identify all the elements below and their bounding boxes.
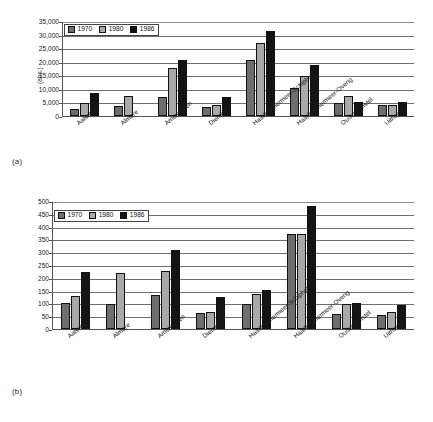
bar-1970 — [202, 107, 211, 116]
bar-1970 — [377, 315, 386, 329]
y-tick-label: 350 — [38, 237, 49, 244]
bar-group — [63, 22, 107, 116]
bar-1970 — [70, 109, 79, 116]
y-tick-mark — [49, 215, 52, 216]
legend-swatch-icon — [99, 26, 106, 33]
y-tick-mark — [49, 279, 52, 280]
bar-1986 — [307, 206, 316, 329]
bar-1970 — [287, 234, 296, 329]
bar-1980 — [116, 273, 125, 329]
y-tick-mark — [59, 63, 62, 64]
y-tick-mark — [49, 228, 52, 229]
chart-a: (abs.)05,00010,00015,00020,00025,00030,0… — [0, 0, 433, 182]
legend-swatch-icon — [89, 212, 96, 219]
bar-1980 — [161, 271, 170, 329]
bar-group — [143, 202, 188, 329]
y-tick-label: 10,000 — [39, 87, 59, 94]
bar-1970 — [158, 97, 167, 116]
bar-1970 — [106, 304, 115, 329]
y-tick-label: 150 — [38, 288, 49, 295]
y-tick-mark — [59, 22, 62, 23]
bar-1980 — [256, 43, 265, 116]
y-tick-mark — [49, 202, 52, 203]
legend-item-1980[interactable]: 1980 — [99, 26, 123, 33]
bar-1970 — [114, 106, 123, 116]
y-tick-mark — [59, 90, 62, 91]
y-tick-label: 50 — [42, 314, 49, 321]
y-tick-label: 200 — [38, 276, 49, 283]
bar-1970 — [378, 105, 387, 116]
y-tick-label: 100 — [38, 301, 49, 308]
y-tick-mark — [49, 317, 52, 318]
legend-item-1986[interactable]: 1986 — [120, 212, 144, 219]
y-tick-mark — [49, 304, 52, 305]
bar-1970 — [242, 304, 251, 329]
legend-swatch-icon — [58, 212, 65, 219]
y-tick-mark — [49, 330, 52, 331]
bar-1970 — [61, 303, 70, 329]
y-tick-mark — [59, 103, 62, 104]
legend-label: 1970 — [78, 26, 93, 33]
legend-label: 1980 — [109, 26, 124, 33]
y-tick-label: 15,000 — [39, 73, 59, 80]
bar-1970 — [151, 295, 160, 329]
y-tick-mark — [49, 266, 52, 267]
chart-legend[interactable]: 197019801986 — [64, 24, 159, 36]
bar-group — [107, 22, 151, 116]
y-tick-label: 30,000 — [39, 32, 59, 39]
bar-1970 — [334, 103, 343, 116]
legend-swatch-icon — [68, 26, 75, 33]
legend-label: 1986 — [140, 26, 155, 33]
y-tick-mark — [59, 76, 62, 77]
bar-1980 — [297, 234, 306, 329]
bar-1970 — [196, 313, 205, 329]
y-tick-mark — [59, 117, 62, 118]
y-tick-label: 500 — [38, 199, 49, 206]
legend-item-1980[interactable]: 1980 — [89, 212, 113, 219]
bar-1970 — [246, 60, 255, 116]
legend-swatch-icon — [120, 212, 127, 219]
y-tick-label: 25,000 — [39, 46, 59, 53]
bar-group — [234, 202, 279, 329]
y-tick-label: 300 — [38, 250, 49, 257]
y-tick-mark — [59, 49, 62, 50]
bar-group — [369, 202, 414, 329]
y-tick-label: 35,000 — [39, 19, 59, 26]
y-tick-mark — [59, 36, 62, 37]
legend-item-1986[interactable]: 1986 — [130, 26, 154, 33]
bar-group — [370, 22, 414, 116]
legend-item-1970[interactable]: 1970 — [68, 26, 92, 33]
y-tick-label: 450 — [38, 212, 49, 219]
y-tick-label: 5,000 — [42, 100, 59, 107]
chart-panel-a: (a) (abs.)05,00010,00015,00020,00025,000… — [0, 0, 433, 182]
chart-legend[interactable]: 197019801986 — [54, 210, 149, 222]
legend-item-1970[interactable]: 1970 — [58, 212, 82, 219]
bar-group — [188, 202, 233, 329]
legend-label: 1980 — [99, 212, 114, 219]
y-tick-label: 250 — [38, 263, 49, 270]
y-tick-mark — [49, 253, 52, 254]
y-tick-mark — [49, 240, 52, 241]
y-tick-label: 400 — [38, 224, 49, 231]
legend-swatch-icon — [130, 26, 137, 33]
y-tick-mark — [49, 292, 52, 293]
chart-panel-b: (b) 050100150200250300350400450500Aalsme… — [0, 182, 433, 422]
chart-b: 050100150200250300350400450500AalsmeerAl… — [0, 182, 433, 422]
y-tick-label: 20,000 — [39, 59, 59, 66]
bar-1970 — [332, 314, 341, 329]
legend-label: 1986 — [130, 212, 145, 219]
legend-label: 1970 — [68, 212, 83, 219]
bar-group — [195, 22, 239, 116]
